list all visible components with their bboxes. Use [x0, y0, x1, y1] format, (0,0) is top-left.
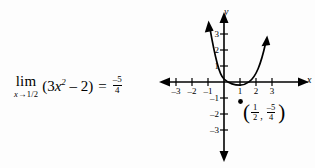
- point-x-numerator: 1: [251, 103, 259, 112]
- exponent: 2: [61, 77, 66, 87]
- graph-canvas: [155, 0, 315, 168]
- limit-figure: lim x→1/2 (3x2 – 2) = –5 4: [0, 0, 315, 168]
- limit-result-fraction: –5 4: [111, 75, 124, 95]
- y-tick-label-neg3: –3: [205, 125, 219, 135]
- point-x-fraction: 1 2: [251, 103, 259, 122]
- point-y-numerator: –5: [265, 103, 278, 112]
- y-axis-label: y: [224, 6, 228, 17]
- y-tick-label-neg1: –1: [205, 93, 219, 103]
- y-tick-label-2: 2: [207, 45, 219, 55]
- limit-operator-subscript: x→1/2: [14, 90, 38, 99]
- point-y-fraction: –5 4: [265, 103, 278, 122]
- x-tick-label-neg3: –3: [168, 86, 184, 96]
- point-y-denominator: 4: [267, 112, 275, 122]
- x-axis-label: x: [307, 74, 311, 85]
- limit-function-body: (3x2 – 2): [42, 78, 93, 94]
- close-paren: ): [88, 78, 93, 94]
- limit-result-denominator: 4: [113, 85, 122, 95]
- x-tick-label-2: 2: [248, 86, 264, 96]
- y-tick-label-neg2: –2: [205, 109, 219, 119]
- y-axis-arrow-down: [220, 151, 229, 162]
- point-coordinate-label: ( 1 2 , –5 4 ): [243, 103, 285, 122]
- x-tick-label-3: 3: [264, 86, 280, 96]
- point-open-paren: (: [243, 104, 250, 121]
- limit-operator: lim x→1/2: [14, 74, 38, 99]
- point-close-paren: ): [278, 104, 285, 121]
- point-x-denominator: 2: [251, 112, 259, 122]
- minus-sign: –: [70, 78, 78, 94]
- parabola-right-arrow: [262, 36, 271, 47]
- y-tick-label-1: 1: [207, 61, 219, 71]
- x-tick-label-neg2: –2: [184, 86, 200, 96]
- limit-subscript-value: 1/2: [27, 89, 38, 99]
- limit-result-numerator: –5: [111, 75, 124, 84]
- limit-operator-word: lim: [16, 74, 37, 89]
- x-tick-label-1: 1: [232, 86, 248, 96]
- coefficient: 3: [47, 78, 55, 94]
- limit-expression: lim x→1/2 (3x2 – 2) = –5 4: [14, 74, 124, 99]
- equals-sign: =: [98, 79, 106, 94]
- point-comma: ,: [260, 111, 263, 122]
- y-tick-label-3: 3: [207, 29, 219, 39]
- limit-subscript-arrow: →: [18, 89, 27, 99]
- parabola-graph: y x –3 –2 –1 1 2 3 3 2 1 –1 –2 –3 ( 1 2 …: [155, 0, 315, 168]
